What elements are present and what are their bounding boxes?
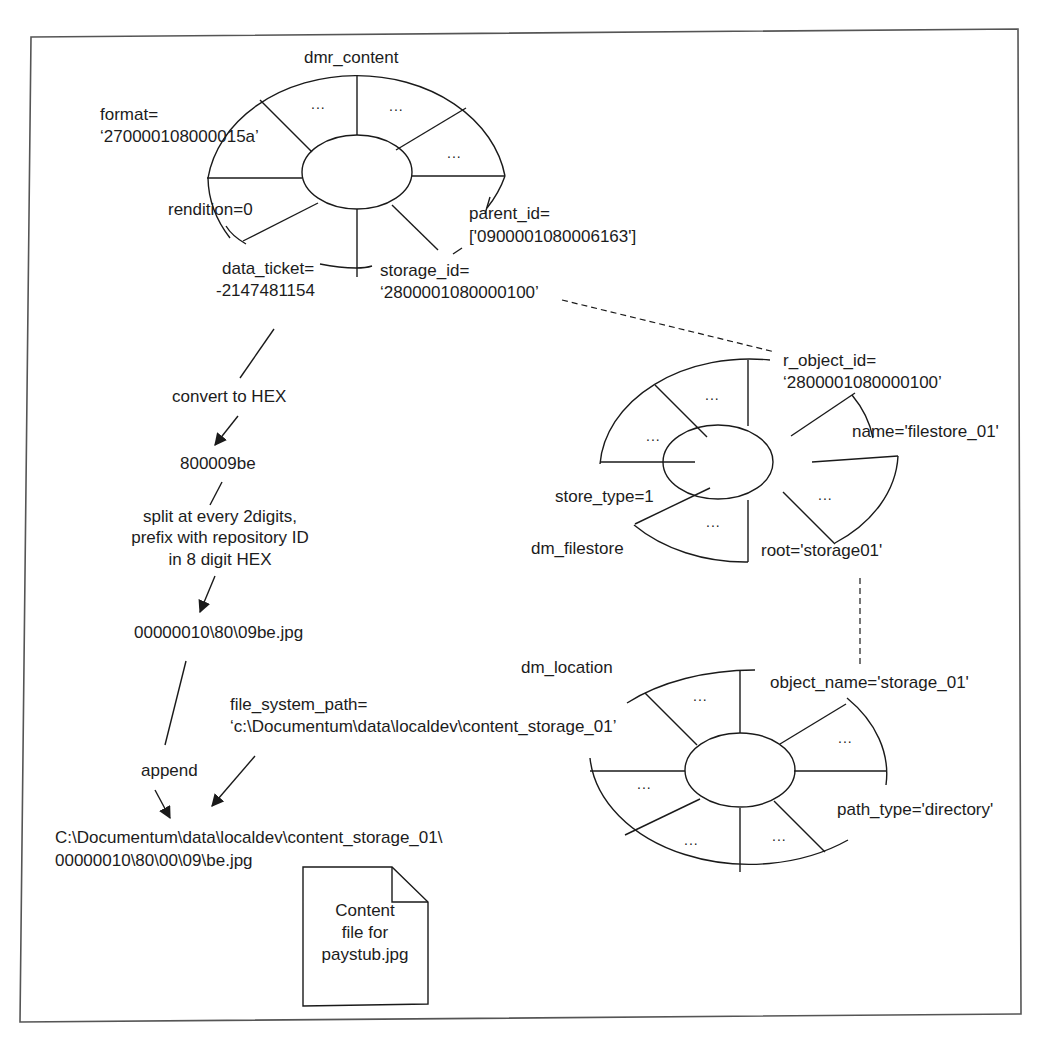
format-value: ‘270000108000015a’: [100, 126, 259, 147]
dm-location-wheel: [590, 670, 887, 872]
parent-id-value: ['0900001080006163']: [469, 226, 636, 247]
step-split-line2: prefix with repository ID: [110, 527, 330, 548]
flow-line-1: [240, 329, 274, 378]
step-convert-hex: convert to HEX: [172, 386, 286, 407]
placeholder-dots: ...: [818, 487, 833, 503]
storage-id-value: ‘2800001080000100’: [380, 282, 539, 303]
flow-arrow-2: [200, 576, 215, 612]
storage-id-label: storage_id=: [380, 260, 469, 281]
document-caption-line1: Content: [310, 900, 420, 921]
r-object-id-label: r_object_id=: [783, 350, 876, 371]
flow-line-2: [210, 482, 222, 505]
flow-arrow-3: [155, 790, 170, 818]
placeholder-dots: ...: [693, 688, 708, 704]
store-type-label: store_type=1: [555, 486, 654, 507]
name-label: name='filestore_01': [852, 421, 999, 442]
flow-arrow-4: [212, 756, 255, 806]
file-system-path-label: file_system_path=: [230, 694, 368, 715]
flow-line-3: [165, 661, 186, 745]
data-ticket-label: data_ticket=: [222, 258, 314, 279]
dmr-content-title: dmr_content: [304, 47, 399, 68]
document-caption-line2: file for: [310, 922, 420, 943]
flow-arrow-1: [215, 416, 238, 445]
final-path-line2: 00000010\80\00\09\be.jpg: [55, 850, 253, 871]
rendition-label: rendition=0: [168, 199, 253, 220]
document-caption-line3: paystub.jpg: [305, 944, 425, 965]
placeholder-dots: ...: [389, 98, 404, 114]
placeholder-dots: ...: [706, 514, 721, 530]
placeholder-dots: ...: [646, 428, 661, 444]
dmr-content-wheel: [207, 76, 505, 277]
result-path: 00000010\80\09be.jpg: [134, 622, 303, 643]
final-path-line1: C:\Documentum\data\localdev\content_stor…: [55, 827, 442, 848]
placeholder-dots: ...: [772, 828, 787, 844]
dm-filestore-title: dm_filestore: [531, 538, 624, 559]
placeholder-dots: ...: [684, 832, 699, 848]
path-type-label: path_type='directory': [837, 799, 993, 820]
data-ticket-value: -2147481154: [216, 280, 315, 301]
result-hex: 800009be: [180, 453, 256, 474]
figure: dmr_content format= ‘270000108000015a’ r…: [0, 0, 1045, 1052]
placeholder-dots: ...: [705, 387, 720, 403]
r-object-id-value: ‘2800001080000100’: [783, 372, 942, 393]
step-append: append: [141, 760, 198, 781]
placeholder-dots: ...: [838, 730, 853, 746]
file-system-path-value: ‘c:\Documentum\data\localdev\content_sto…: [230, 716, 617, 737]
placeholder-dots: ...: [637, 776, 652, 792]
parent-id-label: parent_id=: [469, 203, 550, 224]
link-storage-to-filestore: [562, 300, 775, 352]
placeholder-dots: ...: [447, 145, 462, 161]
placeholder-dots: ...: [311, 96, 326, 112]
object-name-label: object_name='storage_01': [770, 672, 969, 693]
format-label: format=: [100, 104, 158, 125]
dm-location-title: dm_location: [521, 657, 613, 678]
step-split-line3: in 8 digit HEX: [120, 549, 320, 570]
root-label: root='storage01': [761, 540, 882, 561]
step-split-line1: split at every 2digits,: [120, 506, 320, 527]
